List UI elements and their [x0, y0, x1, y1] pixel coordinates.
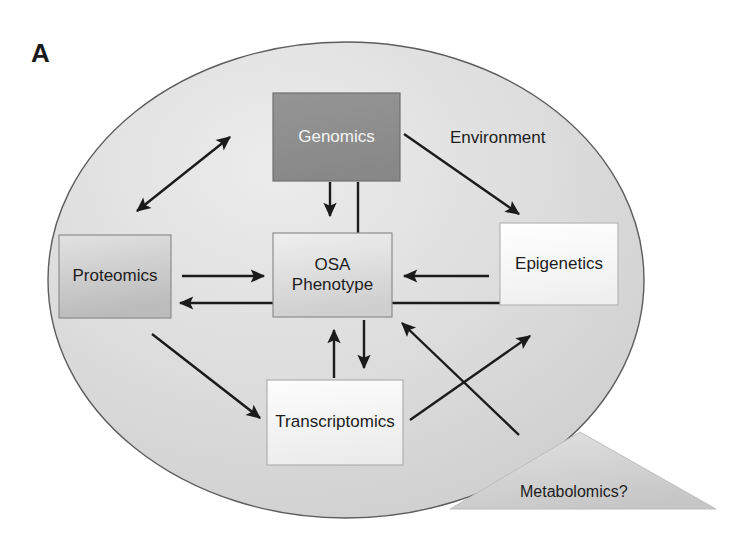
node-label-metabolomics: Metabolomics?	[520, 483, 628, 501]
figure-panel-a: A Environment Genomics Proteomics OSA Ph…	[0, 0, 733, 546]
node-genomics[interactable]	[273, 93, 400, 181]
node-osa-phenotype[interactable]	[273, 233, 392, 317]
node-transcriptomics[interactable]	[267, 380, 403, 465]
panel-letter: A	[31, 38, 50, 69]
environment-label: Environment	[450, 128, 545, 148]
node-epigenetics[interactable]	[500, 223, 618, 305]
node-proteomics[interactable]	[59, 235, 171, 318]
figure-canvas	[0, 0, 733, 546]
